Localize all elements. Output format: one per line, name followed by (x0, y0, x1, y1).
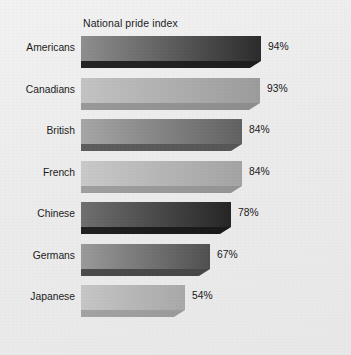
category-label: Americans (6, 42, 75, 53)
bar-row: Canadians93% (0, 78, 351, 114)
value-label: 54% (192, 290, 213, 301)
bar-face (81, 78, 260, 103)
bar-face (81, 161, 242, 186)
bar (81, 119, 244, 151)
national-pride-index-chart: National pride index Americans94%Canadia… (0, 0, 351, 355)
value-label: 84% (249, 124, 270, 135)
bar (81, 78, 262, 110)
bar-row: Chinese78% (0, 202, 351, 238)
bar-shadow-face (81, 227, 231, 234)
bar-face (81, 36, 261, 61)
bar (81, 202, 233, 234)
bar-face (81, 285, 185, 310)
value-label: 93% (267, 83, 288, 94)
bar (81, 285, 187, 317)
bar-row: British84% (0, 119, 351, 155)
bar-face (81, 202, 231, 227)
category-label: Germans (6, 250, 75, 261)
chart-title: National pride index (83, 17, 178, 29)
bar-shadow-face (81, 144, 242, 151)
bar-shadow-face (81, 186, 242, 193)
chart-plot-area: Americans94%Canadians93%British84%French… (0, 36, 351, 336)
value-label: 67% (217, 249, 238, 260)
bar (81, 244, 212, 276)
bar-face (81, 244, 210, 269)
category-label: Chinese (6, 208, 75, 219)
bar-row: French84% (0, 161, 351, 197)
bar-shadow-face (81, 61, 261, 68)
bar-face (81, 119, 242, 144)
category-label: British (6, 125, 75, 136)
category-label: French (6, 167, 75, 178)
bar (81, 161, 244, 193)
bar-row: Germans67% (0, 244, 351, 280)
bar (81, 36, 263, 68)
bar-shadow-face (81, 103, 260, 110)
value-label: 84% (249, 166, 270, 177)
bar-shadow-face (81, 310, 185, 317)
category-label: Canadians (6, 84, 75, 95)
value-label: 78% (238, 207, 259, 218)
category-label: Japanese (6, 291, 75, 302)
bar-row: Americans94% (0, 36, 351, 72)
value-label: 94% (268, 41, 289, 52)
bar-row: Japanese54% (0, 285, 351, 321)
bar-shadow-face (81, 269, 210, 276)
